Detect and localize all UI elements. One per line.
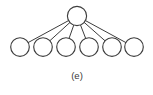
leaf-node [34, 38, 53, 57]
figure-container: (e) [0, 0, 153, 95]
figure-caption: (e) [71, 70, 83, 81]
leaf-node [11, 38, 30, 57]
node-layer [11, 6, 144, 56]
graph-edge [80, 25, 85, 38]
leaf-node [80, 38, 99, 57]
leaf-node [57, 38, 76, 57]
graph-edge [69, 25, 74, 38]
hub-node [67, 6, 86, 25]
leaf-node [125, 38, 144, 57]
star-topology-diagram: (e) [0, 0, 153, 95]
leaf-node [103, 38, 122, 57]
